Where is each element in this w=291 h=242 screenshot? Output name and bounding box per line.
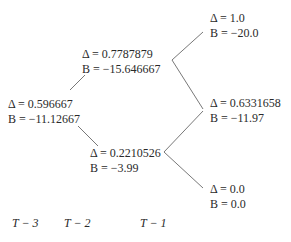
node-dd: Δ = 0.0 B = 0.0 [210, 182, 246, 212]
time-label-t1: T − 1 [140, 216, 167, 231]
node-uu-delta: Δ = 1.0 [210, 11, 259, 26]
edge-up-children [172, 32, 203, 109]
edge-root-up [70, 75, 85, 90]
node-root-b: B = −11.12667 [8, 112, 80, 127]
node-ud-b: B = −11.97 [210, 111, 281, 126]
node-up-b: B = −15.646667 [82, 62, 161, 77]
node-down: Δ = 0.2210526 B = −3.99 [90, 146, 161, 176]
time-label-t2: T − 2 [64, 216, 91, 231]
node-ud: Δ = 0.6331658 B = −11.97 [210, 96, 281, 126]
node-uu: Δ = 1.0 B = −20.0 [210, 11, 259, 41]
node-up-delta: Δ = 0.7787879 [82, 47, 161, 62]
node-uu-b: B = −20.0 [210, 26, 259, 41]
time-label-t3: T − 3 [12, 216, 39, 231]
node-ud-delta: Δ = 0.6331658 [210, 96, 281, 111]
edge-root-down [78, 126, 98, 146]
node-root-delta: Δ = 0.596667 [8, 97, 80, 112]
node-dd-b: B = 0.0 [210, 197, 246, 212]
node-down-delta: Δ = 0.2210526 [90, 146, 161, 161]
node-root: Δ = 0.596667 B = −11.12667 [8, 97, 80, 127]
edge-down-children [164, 111, 203, 188]
node-down-b: B = −3.99 [90, 161, 161, 176]
node-up: Δ = 0.7787879 B = −15.646667 [82, 47, 161, 77]
node-dd-delta: Δ = 0.0 [210, 182, 246, 197]
